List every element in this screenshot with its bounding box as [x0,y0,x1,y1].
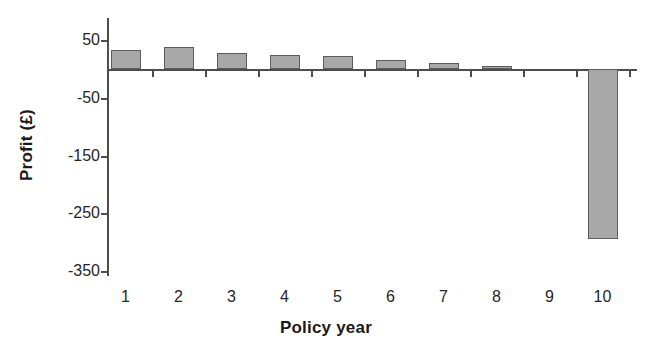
x-axis-tick-mark [311,71,313,77]
x-axis-tick-label-3: 3 [209,288,255,306]
y-axis-title: Profit (£) [6,0,48,290]
y-axis-tick-labels: 50-50-150-250-350 [44,0,100,357]
y-axis-tick-label: -350 [44,262,100,280]
x-axis-tick-mark [417,71,419,77]
x-axis-tick-label-7: 7 [421,288,467,306]
y-axis-tick-label: -250 [44,204,100,222]
bar-year-4 [270,55,300,69]
x-axis-tick-label-10: 10 [580,288,626,306]
y-axis-tick-label: -150 [44,147,100,165]
y-axis-title-label: Profit (£) [17,109,37,181]
x-axis-tick-label-5: 5 [315,288,361,306]
x-axis-tick-mark [576,71,578,77]
x-axis-tick-label-6: 6 [368,288,414,306]
bar-year-5 [323,56,353,69]
plot-area [107,18,637,278]
x-axis-tick-mark [258,71,260,77]
x-axis-tick-mark [152,71,154,77]
x-axis-tick-mark [470,71,472,77]
y-axis-tick-mark [101,271,108,273]
y-axis-line [107,18,109,276]
x-axis-tick-label-4: 4 [262,288,308,306]
x-axis-tick-label-1: 1 [103,288,149,306]
x-axis-tick-mark [205,71,207,77]
bar-year-2 [164,47,194,69]
y-axis-tick-mark [101,156,108,158]
x-axis-tick-label-2: 2 [156,288,202,306]
x-axis-tick-label-8: 8 [474,288,520,306]
x-axis-tick-mark [364,71,366,77]
bar-year-8 [482,66,512,69]
x-axis-tick-label-9: 9 [527,288,573,306]
bar-year-6 [376,60,406,69]
bar-year-7 [429,63,459,69]
y-axis-tick-mark [101,98,108,100]
y-axis-tick-mark [101,213,108,215]
x-axis-tick-mark [629,71,631,77]
x-axis-title: Policy year [0,318,652,338]
x-axis-zero-line [107,69,637,71]
bar-year-3 [217,53,247,69]
y-axis-tick-mark [101,40,108,42]
bar-year-1 [111,50,141,68]
bar-year-10 [588,69,618,239]
y-axis-tick-label: -50 [44,89,100,107]
x-axis-tick-mark [523,71,525,77]
bar-chart-figure: Profit (£) 50-50-150-250-350 Policy year… [0,0,652,357]
y-axis-tick-label: 50 [44,31,100,49]
